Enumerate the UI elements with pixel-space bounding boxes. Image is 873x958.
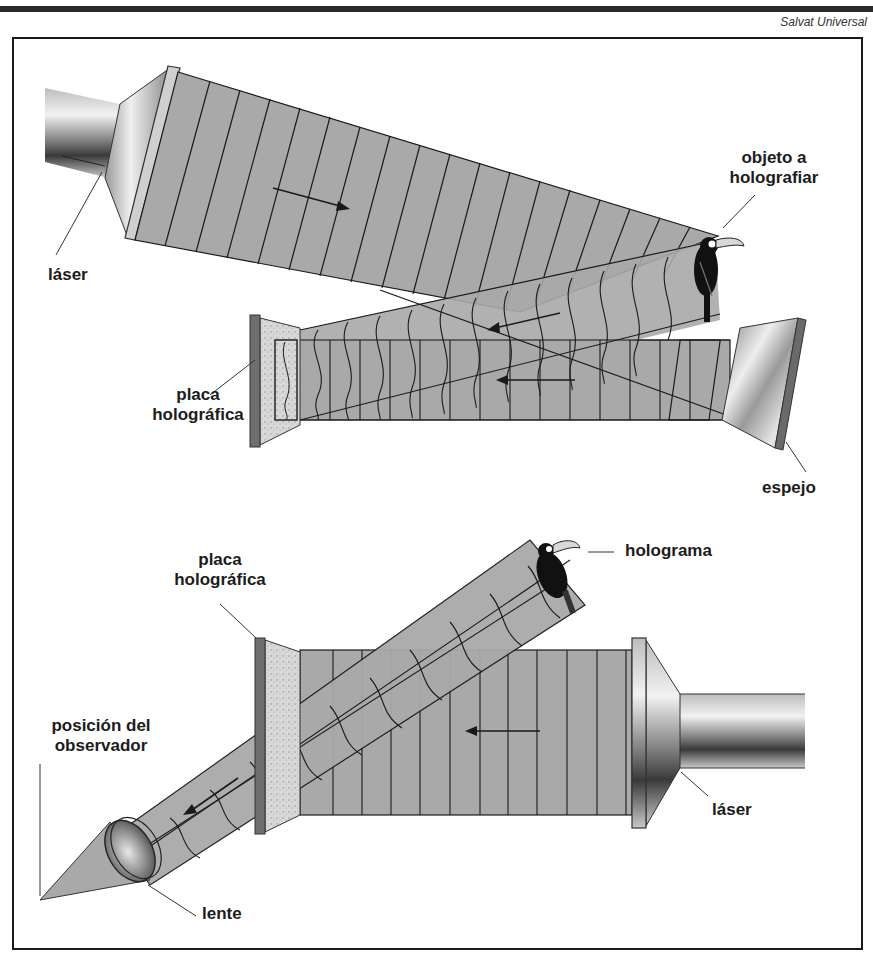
holographic-plate-top xyxy=(250,315,300,447)
label-laser-top: láser xyxy=(48,265,88,285)
label-plate-bottom-line1: placa xyxy=(160,550,280,570)
label-object-to-holograph: objeto a holografiar xyxy=(714,148,834,188)
label-plate-bottom-line2: holográfica xyxy=(160,570,280,590)
label-hologram: holograma xyxy=(625,541,712,561)
label-observer-line2: observador xyxy=(36,736,166,756)
label-plate-top: placa holográfica xyxy=(138,385,258,425)
label-observer-position: posición del observador xyxy=(36,716,166,756)
label-lens: lente xyxy=(202,904,242,924)
label-laser-bottom: láser xyxy=(712,800,752,820)
label-object-line2: holografiar xyxy=(714,168,834,188)
label-observer-line1: posición del xyxy=(36,716,166,736)
label-plate-bottom: placa holográfica xyxy=(160,550,280,590)
holographic-plate-bottom xyxy=(255,638,300,834)
label-plate-top-line1: placa xyxy=(138,385,258,405)
label-plate-top-line2: holográfica xyxy=(138,405,258,425)
label-object-line1: objeto a xyxy=(714,148,834,168)
label-mirror: espejo xyxy=(762,478,816,498)
